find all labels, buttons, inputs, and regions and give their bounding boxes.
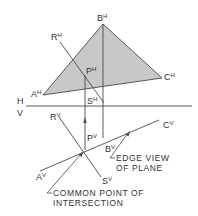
label-r-h: RH [51,32,62,42]
annotation-edge-view-line2: OF PLANE [116,163,163,173]
annotation-edge-view-line1: EDGE VIEW [116,153,170,163]
label-s-v: SV [102,176,112,186]
descriptive-geometry-diagram: BH RH PH CH AH SH H V RV CV PV BV AV SV … [0,0,198,216]
line-rs-front-view [59,117,101,177]
label-a-v: AV [36,172,46,182]
label-r-v: RV [50,112,61,122]
annotation-common-point-line2: INTERSECTION [53,198,123,208]
annotation-common-point-line1: COMMON POINT OF [53,188,144,198]
label-s-h: SH [87,96,97,106]
arrow-up-icon [83,117,86,123]
label-h: H [17,96,24,106]
label-v: V [17,108,23,118]
label-p-v: PV [87,133,97,143]
label-a-h: AH [31,89,41,99]
label-c-v: CV [163,120,174,130]
label-c-h: CH [164,72,175,82]
label-b-h: BH [97,13,107,23]
